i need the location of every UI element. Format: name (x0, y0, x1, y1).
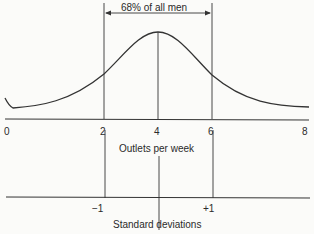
x-tick-8: 8 (302, 127, 308, 137)
sd-tick-plus-one-label: +1 (203, 204, 214, 214)
x-axis-label: Outlets per week (119, 144, 194, 154)
arrow-head-left-icon (105, 11, 111, 16)
bell-curve (5, 32, 309, 108)
x-axis-line (5, 119, 309, 120)
arrow-head-right-icon (205, 11, 211, 16)
x-tick-2: 2 (100, 127, 106, 137)
interval-annotation: 68% of all men (121, 3, 187, 13)
sd-axis-label: Standard deviations (113, 220, 201, 230)
normal-distribution-figure: 68% of all men 0 2 4 6 8 Outlets per wee… (0, 0, 314, 234)
x-tick-4: 4 (154, 127, 160, 137)
x-tick-6: 6 (208, 127, 214, 137)
sd-tick-minus-one-label: −1 (92, 204, 103, 214)
sd-axis-line (6, 197, 310, 198)
chart-graphics (0, 0, 314, 234)
x-tick-0: 0 (4, 127, 10, 137)
